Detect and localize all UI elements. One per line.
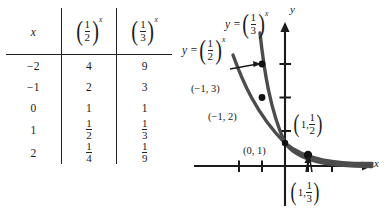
y-axis (280, 22, 289, 206)
header-x: x (6, 8, 61, 55)
paren-open-icon: ( (293, 113, 299, 135)
point-label-neg1-3: (−1, 3) (191, 84, 220, 95)
cell-third: 13 (117, 118, 172, 141)
cell-half: 2 (61, 76, 117, 97)
curve-label-half: y =(12)x (182, 38, 226, 63)
graph-panel: x y y =(13)x y =(12)x (−1, 3) (−1, 2) (0… (186, 0, 388, 215)
paren-open-icon: ( (199, 38, 206, 63)
x-axis-label: x (374, 158, 379, 169)
paren-close-icon: ) (215, 38, 222, 63)
cell-half: 4 (61, 55, 117, 77)
paren-close-icon: ) (258, 12, 265, 37)
cell-half: 12 (61, 118, 117, 141)
point-label-0-1: (0, 1) (243, 146, 266, 157)
point-neg1-2 (259, 94, 266, 101)
paren-open-icon: ( (290, 181, 296, 203)
point-label-1-half: (1,12) (292, 112, 324, 136)
cell-x: 1 (6, 118, 61, 141)
paren-close-icon: ) (314, 181, 320, 203)
paren-close-icon: ) (92, 19, 99, 44)
cell-third: 19 (117, 141, 172, 164)
table-row: 0 1 1 (6, 97, 172, 118)
paren-close-icon: ) (317, 113, 323, 135)
coordinate-plot (186, 0, 388, 215)
table-row: −1 2 3 (6, 76, 172, 97)
paren-open-icon: ( (132, 19, 139, 44)
paren-close-icon: ) (148, 19, 155, 44)
y-axis-label: y (290, 4, 295, 15)
point-label-1-third: (1,13) (289, 180, 321, 204)
point-label-neg1-2: (−1, 2) (208, 112, 237, 123)
cell-third: 1 (117, 97, 172, 118)
cell-half: 1 (61, 97, 117, 118)
paren-open-icon: ( (76, 19, 83, 44)
cell-third: 3 (117, 76, 172, 97)
cell-half: 14 (61, 141, 117, 164)
value-table: x (12)x (13)x −2 4 9 −1 (6, 8, 172, 164)
point-0-1 (282, 140, 288, 146)
cell-third: 9 (117, 55, 172, 77)
table-row: 2 14 19 (6, 141, 172, 164)
table-row: 1 12 13 (6, 118, 172, 141)
exponential-functions-figure: x (12)x (13)x −2 4 9 −1 (0, 0, 388, 215)
curve-third-power (260, 33, 372, 167)
curve-label-third: y =(13)x (225, 12, 269, 37)
table-row: −2 4 9 (6, 55, 172, 77)
header-half-power: (12)x (61, 8, 117, 55)
value-table-panel: x (12)x (13)x −2 4 9 −1 (0, 0, 186, 215)
cell-x: −1 (6, 76, 61, 97)
cell-x: 0 (6, 97, 61, 118)
table-header-row: x (12)x (13)x (6, 8, 172, 55)
paren-open-icon: ( (242, 12, 249, 37)
cell-x: −2 (6, 55, 61, 77)
header-third-power: (13)x (117, 8, 172, 55)
cell-x: 2 (6, 141, 61, 164)
